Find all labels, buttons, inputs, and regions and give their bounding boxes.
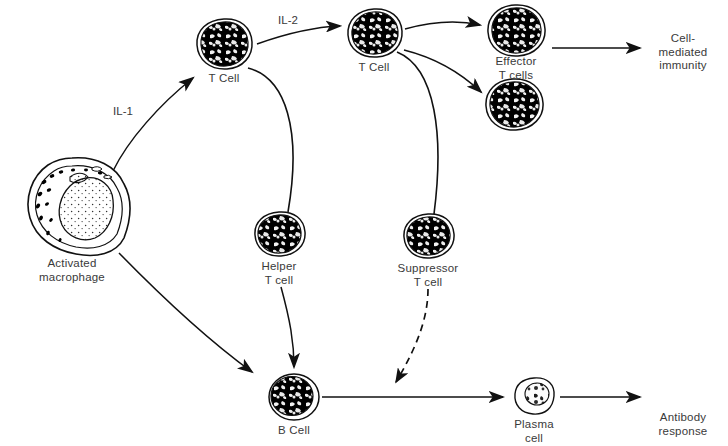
arrow-suppressor-inhibition <box>396 289 428 382</box>
cell-effector-t-cell-upper <box>488 5 545 56</box>
arrow-t-cell-1-to-t-cell-2 <box>257 26 340 44</box>
cell-b-cell <box>269 374 319 420</box>
diagram-canvas <box>0 0 728 446</box>
immune-response-diagram: Activated macrophage T Cell T Cell Effec… <box>0 0 728 446</box>
arrow-helper-t-cell-to-b-cell <box>281 287 294 367</box>
cell-t-cell-2 <box>348 9 402 57</box>
cell-activated-macrophage <box>28 158 130 256</box>
leader-t-cell-1-to-helper-t-cell <box>248 68 293 212</box>
label-cytokine-il-1: IL-1 <box>113 105 133 117</box>
cell-helper-t-cell <box>255 212 305 256</box>
label-cytokine-il-2: IL-2 <box>278 14 298 26</box>
arrow-macrophage-to-t-cell-1 <box>113 78 193 171</box>
cell-effector-t-cell-lower <box>486 79 543 130</box>
cell-suppressor-t-cell <box>404 214 454 258</box>
leader-t-cell-2-to-suppressor-t-cell <box>397 52 438 214</box>
cell-t-cell-1 <box>197 19 252 69</box>
arrow-macrophage-to-b-cell <box>119 253 252 372</box>
cell-plasma-cell <box>515 378 554 414</box>
arrow-t-cell-2-to-effector-upper <box>405 22 480 29</box>
figure-caption-fragment <box>4 440 214 446</box>
arrow-t-cell-2-to-effector-lower <box>404 50 481 92</box>
